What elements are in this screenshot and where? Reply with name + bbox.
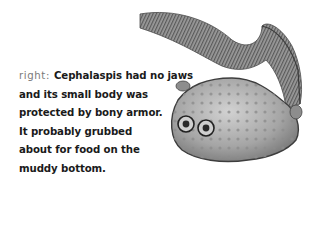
figure-caption: right:Cephalaspis had no jaws and its sm…: [19, 67, 199, 179]
caption-line-5: about for food on the: [19, 141, 199, 160]
caption-line-2: and its small body was: [19, 86, 199, 105]
caption-line-6: muddy bottom.: [19, 160, 199, 179]
caption-lead: right:: [19, 70, 50, 81]
caption-line-3: protected by bony armor.: [19, 104, 199, 123]
caption-line-4: It probably grubbed: [19, 123, 199, 142]
caption-line-1: right:Cephalaspis had no jaws: [19, 67, 199, 86]
